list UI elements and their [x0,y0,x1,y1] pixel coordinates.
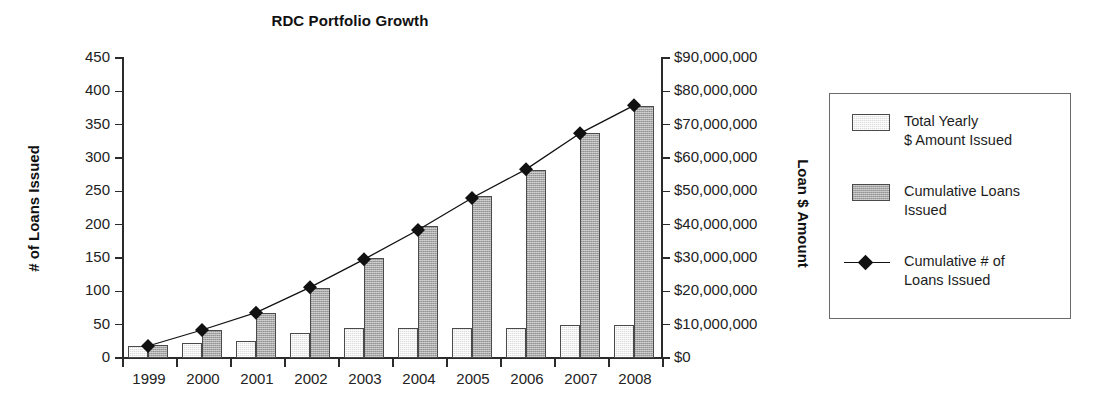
y-axis-left-tick-label: 450 [50,48,110,65]
y-axis-left-tick [115,157,122,159]
y-axis-left-tick [115,91,122,93]
y-axis-left-tick [115,224,122,226]
chart-legend: Total Yearly $ Amount Issued Cumulative … [829,93,1071,319]
x-axis-tick [230,359,232,367]
y-axis-left-tick [115,124,122,126]
legend-label-cumulative-loans: Cumulative Loans Issued [904,182,1020,220]
x-axis-tick [176,359,178,367]
bar-total-yearly-amount [290,333,310,358]
x-axis-tick-label: 2005 [446,370,500,387]
x-axis-tick-label: 2000 [176,370,230,387]
bar-total-yearly-amount [506,328,526,358]
y-axis-right-tick-label: $0 [674,348,691,365]
y-axis-right-tick [663,91,670,93]
x-axis-tick [122,359,124,367]
chart-title: RDC Portfolio Growth [0,12,700,29]
y-axis-left-tick-label: 0 [50,348,110,365]
y-axis-left-tick-label: 150 [50,248,110,265]
bar-total-yearly-amount [560,325,580,358]
y-axis-right-line [661,57,663,359]
y-axis-right-tick-label: $10,000,000 [674,315,757,332]
y-axis-right-tick-label: $80,000,000 [674,81,757,98]
y-axis-left-tick [115,324,122,326]
y-axis-right-tick-label: $20,000,000 [674,281,757,298]
y-axis-right-tick [663,224,670,226]
x-axis-tick-label: 2007 [554,370,608,387]
y-axis-right-tick [663,324,670,326]
y-axis-left-line [122,57,124,359]
y-axis-left-tick-label: 400 [50,81,110,98]
y-axis-right-tick-label: $40,000,000 [674,215,757,232]
x-axis-tick-label: 2008 [608,370,662,387]
y-axis-right-tick [663,57,670,59]
y-axis-left-tick [115,191,122,193]
bar-cumulative-loans [526,170,546,358]
bar-cumulative-loans [310,288,330,358]
y-axis-left-tick [115,57,122,59]
bar-total-yearly-amount [614,325,634,358]
y-axis-left-tick-label: 350 [50,115,110,132]
legend-item-cumulative-loans[interactable]: Cumulative Loans Issued [852,182,1020,220]
x-axis-tick [338,359,340,367]
y-axis-right-tick [663,257,670,259]
x-axis-tick-label: 2002 [284,370,338,387]
legend-label-cumulative-number-of-loans: Cumulative # of Loans Issued [904,252,1005,290]
x-axis-tick [662,359,664,367]
y-axis-left-tick [115,357,122,359]
y-axis-left-tick-label: 200 [50,215,110,232]
x-axis-tick-label: 2004 [392,370,446,387]
y-axis-right-tick [663,191,670,193]
legend-item-cumulative-number-of-loans[interactable]: Cumulative # of Loans Issued [844,252,1005,290]
bar-cumulative-loans [472,196,492,358]
y-axis-right-tick [663,124,670,126]
x-axis-tick-label: 2003 [338,370,392,387]
bar-cumulative-loans [256,313,276,358]
legend-line-diamond-icon [844,254,890,271]
bar-total-yearly-amount [452,328,472,358]
legend-label-total-yearly-amount: Total Yearly $ Amount Issued [904,112,1012,150]
x-axis-tick [446,359,448,367]
legend-item-total-yearly-amount[interactable]: Total Yearly $ Amount Issued [852,112,1012,150]
y-axis-right-tick-label: $70,000,000 [674,115,757,132]
chart-container: RDC Portfolio Growth 0501001502002503003… [0,0,1098,411]
bar-total-yearly-amount [398,328,418,358]
y-axis-left-tick-label: 250 [50,181,110,198]
x-axis-tick [554,359,556,367]
x-axis-tick [284,359,286,367]
y-axis-right-tick [663,291,670,293]
x-axis-tick-label: 1999 [122,370,176,387]
y-axis-left-tick [115,291,122,293]
y-axis-right-tick [663,357,670,359]
x-axis-tick-label: 2006 [500,370,554,387]
y-axis-left-tick-label: 300 [50,148,110,165]
x-axis-tick [608,359,610,367]
x-axis-tick-label: 2001 [230,370,284,387]
x-axis-tick [392,359,394,367]
legend-swatch-light-icon [852,114,890,131]
bar-cumulative-loans [418,226,438,358]
y-axis-right-tick-label: $30,000,000 [674,248,757,265]
y-axis-left-tick [115,257,122,259]
y-axis-left-tick-label: 100 [50,281,110,298]
y-axis-right-tick-label: $50,000,000 [674,181,757,198]
bar-cumulative-loans [148,345,168,358]
bar-total-yearly-amount [128,346,148,358]
cumulative-loans-line [148,105,634,346]
bar-cumulative-loans [364,258,384,358]
bar-cumulative-loans [580,133,600,358]
y-axis-right-tick-label: $60,000,000 [674,148,757,165]
y-axis-right-tick-label: $90,000,000 [674,48,757,65]
y-axis-left-tick-label: 50 [50,315,110,332]
bar-total-yearly-amount [344,328,364,358]
y-axis-left-title: # of Loans Issued [25,119,42,299]
y-axis-right-title: Loan $ Amount [795,124,812,304]
y-axis-right-tick [663,157,670,159]
bar-cumulative-loans [634,106,654,358]
bar-total-yearly-amount [182,343,202,358]
bar-cumulative-loans [202,330,222,358]
legend-swatch-dark-icon [852,184,890,201]
bar-total-yearly-amount [236,341,256,358]
x-axis-tick [500,359,502,367]
